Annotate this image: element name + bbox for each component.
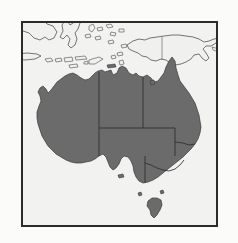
island-speck-d: [95, 36, 101, 40]
map-figure: [0, 0, 238, 243]
map-border-frame: [21, 21, 218, 227]
island-speck-a: [97, 27, 103, 31]
island-speck-e: [110, 32, 116, 36]
island-speck-g: [108, 40, 114, 44]
kai-islands-outline: [111, 55, 116, 59]
australia-map-svg: [23, 23, 216, 225]
island-speck-c: [85, 34, 91, 38]
sumbawa-outline: [64, 57, 73, 62]
kangaroo-island: [118, 174, 124, 178]
melville-island: [107, 64, 116, 68]
sumba-outline: [69, 64, 78, 68]
flinders-island: [160, 190, 164, 194]
flores-outline: [75, 56, 87, 60]
groote-eylandt: [150, 80, 155, 85]
lombok-outline: [55, 58, 62, 62]
island-speck-f: [119, 29, 124, 32]
island-speck-h: [121, 44, 127, 48]
king-island: [138, 192, 142, 196]
island-speck-i: [117, 52, 123, 56]
aru-islands-outline: [119, 60, 124, 65]
